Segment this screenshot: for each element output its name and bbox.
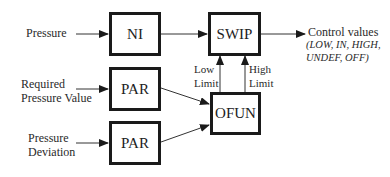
ofun-label: OFUN <box>215 105 256 122</box>
par-label-2: PAR <box>121 135 149 152</box>
par-label-1: PAR <box>121 81 149 98</box>
output-title: Control values <box>308 25 378 39</box>
output-values-line2: UNDEF, OFF) <box>306 51 369 65</box>
swip-label: SWIP <box>217 26 253 43</box>
ofun-block: OFUN <box>210 92 261 135</box>
ni-block: NI <box>109 12 161 56</box>
par-block-required: PAR <box>109 67 161 111</box>
par-block-deviation: PAR <box>109 121 161 165</box>
deviation-label-line2: Deviation <box>28 145 75 159</box>
low-limit-line1: Low <box>194 62 214 76</box>
required-label-line1: Required <box>21 77 65 91</box>
output-values-line1: (LOW, IN, HIGH, <box>306 38 381 52</box>
ni-label: NI <box>127 26 143 43</box>
high-limit-line2: Limit <box>249 76 273 90</box>
swip-block: SWIP <box>208 12 261 56</box>
high-limit-line1: High <box>249 62 271 76</box>
required-label-line2: Pressure Value <box>21 91 92 105</box>
low-limit-line2: Limit <box>194 76 218 90</box>
pressure-input-label: Pressure <box>26 26 67 40</box>
deviation-label-line1: Pressure <box>28 131 69 145</box>
